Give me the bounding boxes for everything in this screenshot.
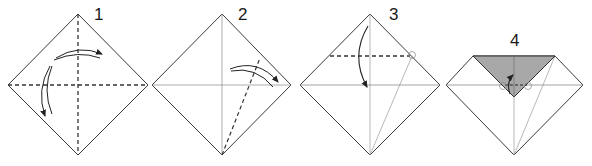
step-number-3: 3 <box>389 6 398 23</box>
diagram-canvas <box>0 0 592 166</box>
step-4 <box>446 56 583 155</box>
step-number-2: 2 <box>238 6 247 23</box>
step-number-4: 4 <box>510 32 519 49</box>
step-1 <box>8 14 148 155</box>
step-3 <box>300 14 440 155</box>
step-2 <box>152 14 291 155</box>
origami-diagram: 1 2 3 4 <box>0 0 592 166</box>
paper-square <box>152 14 291 155</box>
step-number-1: 1 <box>94 6 103 23</box>
